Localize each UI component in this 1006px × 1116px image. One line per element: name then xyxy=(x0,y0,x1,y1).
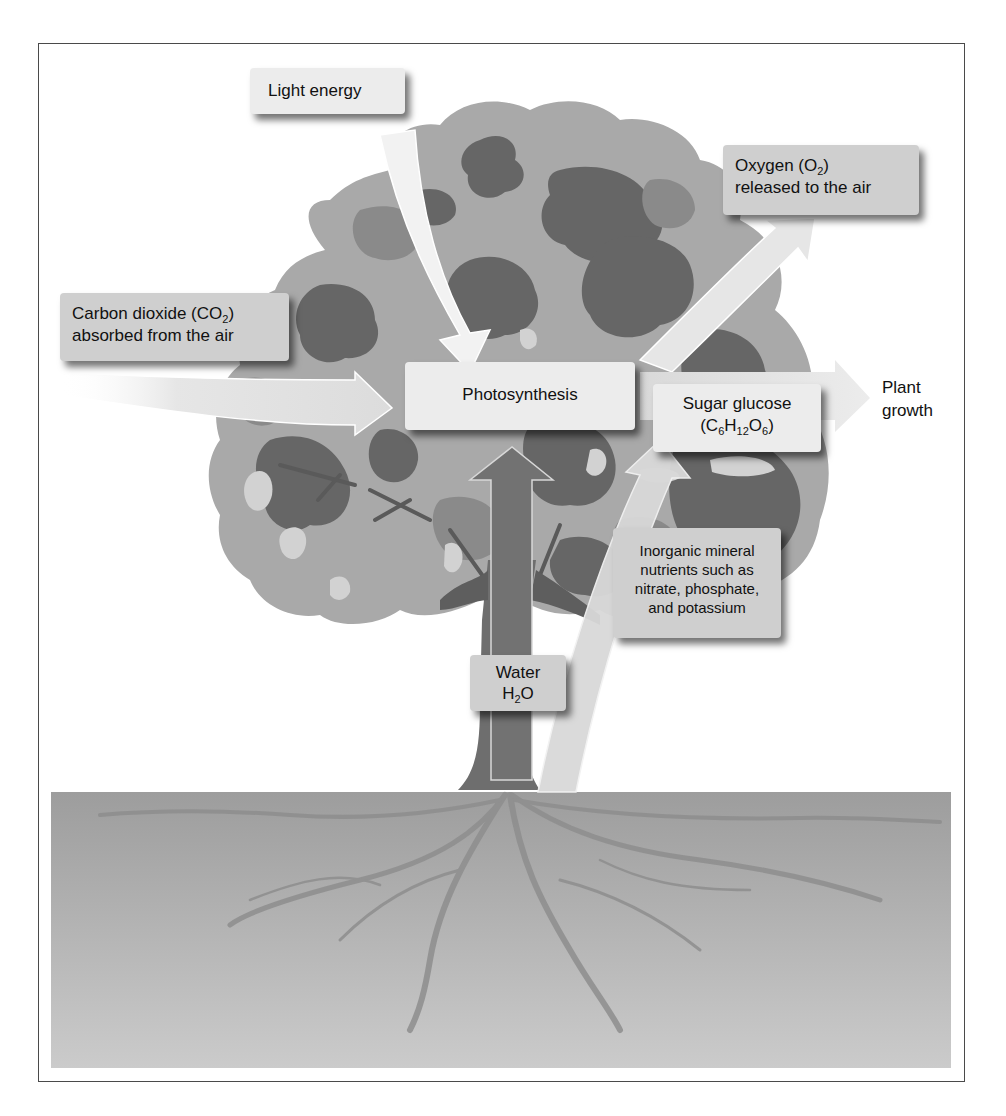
nutrients-label: Inorganic mineral nutrients such as nitr… xyxy=(613,528,781,638)
carbon-dioxide-label: Carbon dioxide (CO2) absorbed from the a… xyxy=(60,293,289,361)
oxygen-label: Oxygen (O2) released to the air xyxy=(723,145,919,215)
nutrients-line3: nitrate, phosphate, xyxy=(613,579,781,598)
nutrients-line2: nutrients such as xyxy=(613,560,781,579)
oxygen-line2: released to the air xyxy=(735,177,919,199)
light-energy-text: Light energy xyxy=(268,81,362,100)
nutrients-line4: and potassium xyxy=(613,598,781,617)
sugar-formula: (C6H12O6) xyxy=(653,415,821,437)
water-label: Water H2O xyxy=(470,655,566,711)
carbon-dioxide-line2: absorbed from the air xyxy=(72,325,289,347)
plant-growth-line1: Plant xyxy=(882,376,933,399)
oxygen-line1: Oxygen (O2) xyxy=(735,155,919,177)
nutrients-line1: Inorganic mineral xyxy=(613,541,781,560)
water-line2: H2O xyxy=(470,683,566,704)
sugar-glucose-label: Sugar glucose (C6H12O6) xyxy=(653,384,821,452)
carbon-dioxide-line1: Carbon dioxide (CO2) xyxy=(72,303,289,325)
light-energy-label: Light energy xyxy=(250,68,405,114)
photosynthesis-text: Photosynthesis xyxy=(462,385,577,404)
plant-growth-label: Plant growth xyxy=(882,376,933,422)
sugar-line1: Sugar glucose xyxy=(653,393,821,415)
water-line1: Water xyxy=(470,662,566,683)
ground xyxy=(51,792,951,1068)
plant-growth-line2: growth xyxy=(882,399,933,422)
photosynthesis-label: Photosynthesis xyxy=(405,362,635,430)
